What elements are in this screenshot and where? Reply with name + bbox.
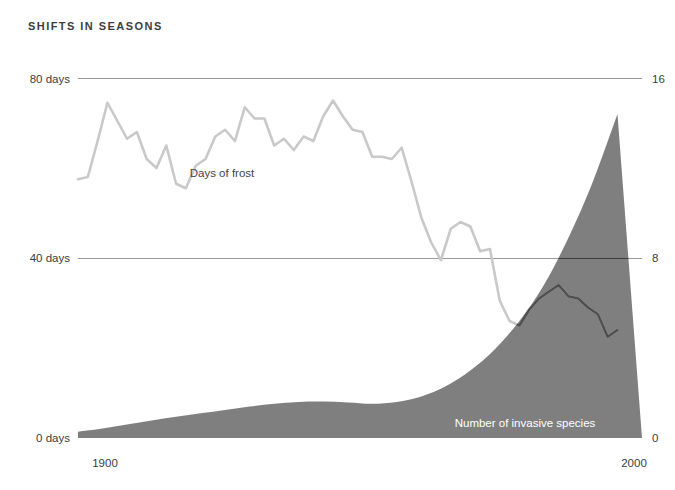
- shifts-in-seasons-chart: 80 days 40 days 0 days 16 8 0 1900 2000 …: [0, 0, 675, 490]
- gridlines-over-fill: [78, 78, 642, 258]
- right-tick-0: 0: [652, 432, 658, 444]
- invasive-species-area: [78, 114, 642, 438]
- series-label-days-of-frost: Days of frost: [190, 167, 255, 179]
- right-axis: 16 8 0: [652, 73, 665, 444]
- left-axis: 80 days 40 days 0 days: [30, 73, 71, 444]
- right-tick-8: 8: [652, 252, 658, 264]
- x-axis: 1900 2000: [92, 457, 647, 469]
- right-tick-16: 16: [652, 73, 665, 85]
- series-label-invasive-species: Number of invasive species: [455, 417, 596, 429]
- gridlines: [78, 78, 642, 258]
- x-tick-2000: 2000: [621, 457, 647, 469]
- left-tick-0: 0 days: [36, 432, 70, 444]
- left-tick-80: 80 days: [30, 73, 71, 85]
- days-of-frost-line-over-fill: [78, 101, 617, 337]
- left-tick-40: 40 days: [30, 252, 71, 264]
- chart-figure: SHIFTS IN SEASONS 80 days: [0, 0, 675, 490]
- x-tick-1900: 1900: [92, 457, 118, 469]
